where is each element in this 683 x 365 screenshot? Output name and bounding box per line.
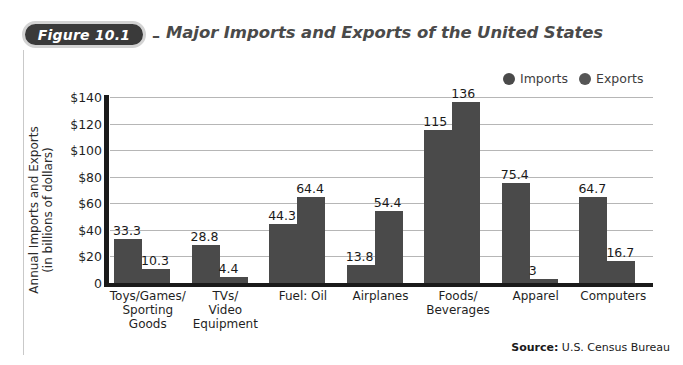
chart-bars-and-grid: 33.310.328.84.444.364.413.854.411513675.… — [110, 97, 653, 283]
bar-group: 28.84.4 — [192, 97, 248, 283]
bar-imports[interactable] — [579, 197, 607, 283]
legend-item-imports[interactable]: Imports — [503, 71, 568, 86]
bar-group: 64.716.7 — [579, 97, 635, 283]
bar-value-label: 54.4 — [374, 195, 402, 210]
x-axis-label-line: Apparel — [491, 289, 581, 303]
bar-group: 44.364.4 — [269, 97, 325, 283]
legend-label: Imports — [520, 71, 568, 86]
source-note-bold-prefix: Source: — [511, 341, 558, 354]
bar-value-label: 16.7 — [606, 245, 634, 260]
x-axis-label-line: Toys/Games/ — [103, 289, 193, 303]
y-tick-label: 0 — [94, 276, 102, 291]
legend-item-exports[interactable]: Exports — [579, 71, 643, 86]
x-axis-category-labels: Toys/Games/SportingGoodsTVs/VideoEquipme… — [109, 289, 653, 337]
figure-title-dash: – — [152, 26, 160, 45]
x-axis-label: TVs/VideoEquipment — [181, 289, 271, 331]
bar-imports[interactable] — [114, 239, 142, 283]
figure-number-badge: Figure 10.1 — [22, 21, 146, 48]
legend-label: Exports — [596, 71, 643, 86]
bar-exports[interactable] — [375, 211, 403, 283]
bar-group: 33.310.3 — [114, 97, 170, 283]
bar-value-label: 115 — [423, 114, 447, 129]
x-axis-label-line: Goods — [103, 317, 193, 331]
figure-header: Figure 10.1 – Major Imports and Exports … — [0, 0, 683, 64]
x-axis-label-line: Beverages — [413, 303, 503, 317]
bar-value-label: 28.8 — [191, 229, 219, 244]
x-axis-label-line: Video — [181, 303, 271, 317]
bar-value-label: 75.4 — [501, 167, 529, 182]
bar-imports[interactable] — [502, 183, 530, 283]
bar-imports[interactable] — [269, 224, 297, 283]
x-axis-line — [104, 283, 653, 287]
chart-plot-area: 33.310.328.84.444.364.413.854.411513675.… — [110, 97, 653, 283]
bar-value-label: 3 — [529, 263, 537, 278]
y-axis-title-line1: Annual Imports and Exports — [27, 110, 41, 310]
bar-value-label: 33.3 — [113, 223, 141, 238]
bar-value-label: 4.4 — [219, 261, 239, 276]
x-axis-label: Apparel — [491, 289, 581, 303]
bar-value-label: 44.3 — [268, 208, 296, 223]
bar-group: 115136 — [424, 97, 480, 283]
y-tick-label: $20 — [78, 249, 102, 264]
bar-exports[interactable] — [452, 102, 480, 283]
bar-group: 13.854.4 — [347, 97, 403, 283]
x-axis-label-line: Foods/ — [413, 289, 503, 303]
y-axis-tick-labels: $140$120$100$80$60$40$200 — [40, 97, 102, 283]
x-axis-label-line: Sporting — [103, 303, 193, 317]
y-axis-line — [104, 95, 109, 285]
x-axis-label-line: Equipment — [181, 317, 271, 331]
figure-number-label: Figure 10.1 — [38, 27, 130, 43]
x-axis-label-line: Airplanes — [336, 289, 426, 303]
bar-value-label: 13.8 — [346, 249, 374, 264]
y-tick-label: $80 — [78, 169, 102, 184]
circle-marker-icon — [503, 73, 515, 85]
x-axis-label: Computers — [568, 289, 658, 303]
x-axis-label: Toys/Games/SportingGoods — [103, 289, 193, 331]
bar-exports[interactable] — [142, 269, 170, 283]
x-axis-label: Foods/Beverages — [413, 289, 503, 317]
x-axis-label-line: TVs/ — [181, 289, 271, 303]
bar-exports[interactable] — [297, 197, 325, 283]
bar-imports[interactable] — [424, 130, 452, 283]
bar-value-label: 136 — [451, 86, 475, 101]
source-note: Source: U.S. Census Bureau — [511, 341, 670, 354]
bar-group: 75.43 — [502, 97, 558, 283]
left-vertical-rule — [23, 50, 24, 355]
bar-imports[interactable] — [192, 245, 220, 283]
x-axis-label: Airplanes — [336, 289, 426, 303]
chart-legend: ImportsExports — [503, 71, 643, 86]
circle-marker-icon — [579, 73, 591, 85]
bar-value-label: 64.4 — [296, 181, 324, 196]
x-axis-label-line: Fuel: Oil — [258, 289, 348, 303]
source-note-text: U.S. Census Bureau — [558, 341, 670, 354]
y-tick-label: $120 — [70, 116, 102, 131]
y-tick-label: $40 — [78, 222, 102, 237]
bar-imports[interactable] — [347, 265, 375, 283]
x-axis-label-line: Computers — [568, 289, 658, 303]
y-tick-label: $140 — [70, 90, 102, 105]
y-tick-label: $100 — [70, 143, 102, 158]
bar-exports[interactable] — [607, 261, 635, 283]
x-axis-label: Fuel: Oil — [258, 289, 348, 303]
bar-value-label: 64.7 — [578, 181, 606, 196]
figure-title: Major Imports and Exports of the United … — [166, 23, 603, 42]
y-tick-label: $60 — [78, 196, 102, 211]
bar-value-label: 10.3 — [141, 253, 169, 268]
